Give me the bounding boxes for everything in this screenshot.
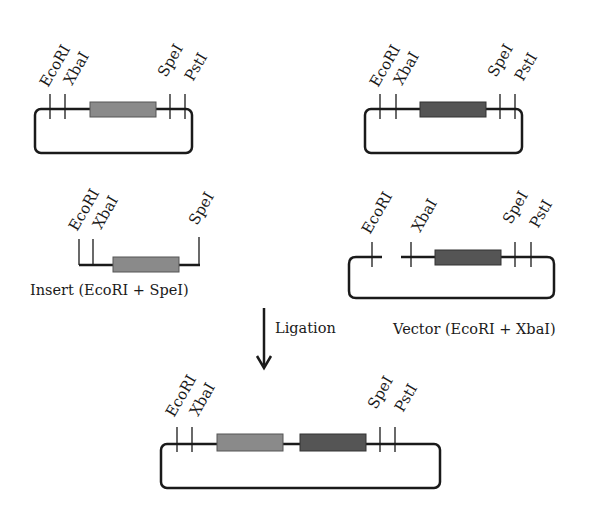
- biobrick-assembly-diagram: EcoRI XbaI SpeI PstI EcoRI XbaI SpeI Pst…: [0, 0, 611, 510]
- insert-part-box: [90, 102, 156, 117]
- insert-part-box: [217, 434, 283, 451]
- plasmid-insert-source: EcoRI XbaI SpeI PstI: [35, 41, 211, 153]
- insert-fragment: EcoRI XbaI SpeI Insert (EcoRI + SpeI): [30, 185, 218, 298]
- vector-caption: Vector (EcoRI + XbaI): [392, 321, 556, 337]
- site-label-spei: SpeI: [185, 189, 218, 228]
- ligation-label: Ligation: [275, 320, 336, 336]
- vector-part-box: [420, 102, 486, 117]
- insert-caption: Insert (EcoRI + SpeI): [30, 282, 189, 298]
- product-plasmid: EcoRI XbaI SpeI PstI: [161, 371, 440, 488]
- plasmid-vector-source: EcoRI XbaI SpeI PstI: [365, 41, 541, 153]
- cut-vector: EcoRI XbaI SpeI PstI Vector (EcoRI + Xba…: [349, 188, 556, 337]
- site-label-ecori: EcoRI: [358, 188, 396, 237]
- ligation-arrow: Ligation: [257, 308, 336, 368]
- site-label-psti: PstI: [526, 197, 556, 231]
- vector-part-box: [435, 250, 501, 265]
- site-label-xbai: XbaI: [408, 195, 441, 235]
- site-label-psti: PstI: [511, 50, 541, 84]
- site-label-psti: PstI: [391, 381, 421, 415]
- site-label-psti: PstI: [181, 50, 211, 84]
- insert-part-box: [113, 257, 179, 272]
- vector-part-box: [300, 434, 366, 451]
